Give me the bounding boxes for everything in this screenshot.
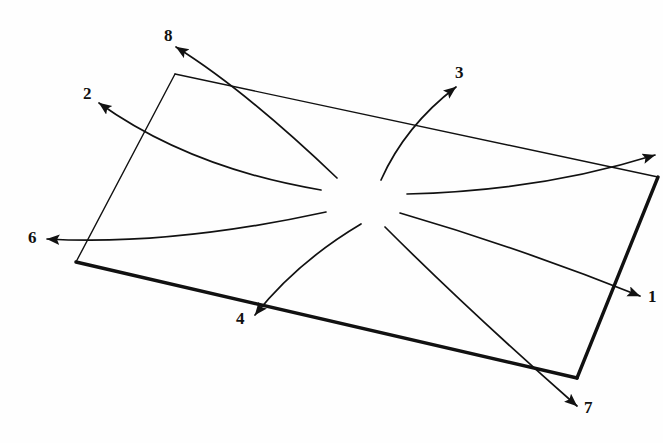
arrow-curve-2 bbox=[99, 103, 321, 190]
arrow-label-7: 7 bbox=[584, 399, 593, 416]
figure-canvas: 1234678 bbox=[0, 0, 663, 443]
figure-svg bbox=[0, 0, 663, 443]
arrow-label-6: 6 bbox=[28, 229, 37, 246]
arrow-curve-5 bbox=[407, 155, 655, 194]
arrow-curve-6 bbox=[47, 212, 326, 240]
arrow-curve-7 bbox=[385, 227, 577, 406]
arrow-label-4: 4 bbox=[236, 310, 245, 327]
rect-edge-bottom bbox=[76, 262, 577, 378]
arrow-label-8: 8 bbox=[164, 27, 173, 44]
arrow-curve-1 bbox=[400, 213, 640, 296]
arrow-label-1: 1 bbox=[648, 288, 657, 305]
rect-edge-right bbox=[577, 177, 658, 378]
arrow-curve-4 bbox=[255, 224, 361, 315]
arrow-label-2: 2 bbox=[83, 85, 92, 102]
arrow-curve-3 bbox=[381, 87, 456, 180]
tilted-rectangle bbox=[76, 74, 658, 378]
rect-edge-top bbox=[175, 74, 658, 177]
arrow-curves bbox=[47, 47, 655, 406]
arrow-curve-8 bbox=[176, 47, 337, 178]
arrow-label-3: 3 bbox=[455, 64, 464, 81]
